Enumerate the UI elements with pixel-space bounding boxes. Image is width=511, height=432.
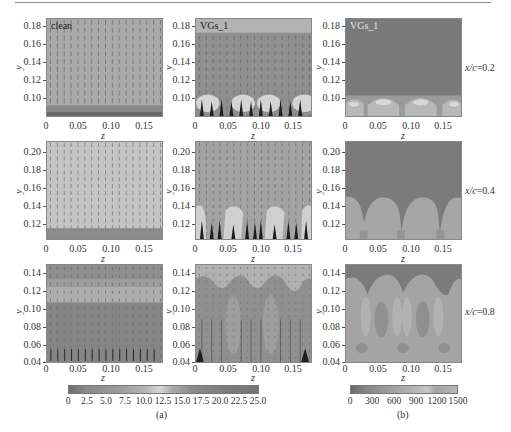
station-val: =0.8 [477,306,495,317]
y-axis-label: y [13,189,24,193]
xtick: 0 [330,363,360,374]
ytick: 0.14 [11,200,41,211]
colorbar-b [350,385,458,394]
vector-field [196,142,311,239]
panel-vgs-a-row3 [195,264,312,363]
ytick: 0.08 [310,321,340,332]
x-axis-label: z [101,372,105,383]
y-axis-label: y [163,309,174,313]
x-axis-label: z [401,253,405,264]
x-axis-label: z [101,253,105,264]
vector-field [196,19,311,116]
panel-clean-row3 [46,264,163,363]
y-axis-label: y [13,309,24,313]
ytick: 0.12 [160,218,190,229]
station-var: x/c [465,185,477,196]
top-rule [15,2,491,3]
ytick: 0.14 [310,200,340,211]
xtick: 0.15 [278,120,308,131]
ytick: 0.12 [160,74,190,85]
ytick: 0.12 [160,285,190,296]
xtick: 0 [180,120,210,131]
ytick: 0.12 [11,218,41,229]
ytick: 0.10 [11,92,41,103]
ytick: 0.20 [160,146,190,157]
ytick: 0.12 [310,285,340,296]
ytick: 0.12 [310,74,340,85]
vector-field [47,19,162,116]
xtick: 0 [330,243,360,254]
ytick: 0.18 [160,20,190,31]
panel-clean-row1: clean [46,18,163,117]
xtick: 0 [180,243,210,254]
xtick: 0.05 [63,120,93,131]
ytick: 0.12 [11,285,41,296]
xtick: 0 [31,363,61,374]
panel-vgs-b-row1: VGs_1 [345,18,462,117]
xtick: 0.15 [278,363,308,374]
caption-a: (a) [156,409,167,420]
xtick: 0.15 [129,363,159,374]
ytick: 0.08 [11,321,41,332]
xtick: 0.05 [363,243,393,254]
x-axis-label: z [401,372,405,383]
ytick: 0.18 [11,164,41,175]
xtick: 0.15 [428,363,458,374]
xtick: 0 [31,120,61,131]
panel-vgs-a-row1: VGs_1 [195,18,312,117]
ytick: 0.16 [160,38,190,49]
x-axis-label: z [251,372,255,383]
ytick: 0.06 [310,339,340,350]
ytick: 0.08 [160,321,190,332]
y-axis-label: y [313,309,324,313]
x-axis-label: z [251,130,255,141]
caption-b: (b) [397,409,409,420]
y-axis-label: y [313,65,324,69]
xtick: 0.15 [129,243,159,254]
xtick: 0.05 [363,363,393,374]
ytick: 0.20 [310,146,340,157]
panel-vgs-b-row3 [345,264,462,363]
ytick: 0.18 [11,20,41,31]
station-label-row3: x/c=0.8 [465,306,495,317]
panel-clean-row2 [46,141,163,240]
ytick: 0.20 [11,146,41,157]
station-val: =0.4 [477,185,495,196]
xtick: 0 [31,243,61,254]
ytick: 0.14 [160,200,190,211]
cbar-tick: 1500 [445,396,471,406]
ytick: 0.06 [160,339,190,350]
panel-label: clean [51,20,72,31]
station-label-row2: x/c=0.4 [465,185,495,196]
xtick: 0.05 [213,363,243,374]
ytick: 0.16 [310,38,340,49]
colorbar-a [68,385,259,394]
ytick: 0.16 [11,38,41,49]
xtick: 0.05 [63,363,93,374]
xtick: 0.05 [213,120,243,131]
ytick: 0.12 [11,74,41,85]
ytick: 0.14 [310,267,340,278]
x-axis-label: z [251,253,255,264]
contour-field [346,19,461,116]
vector-field [196,265,311,362]
y-axis-label: y [163,65,174,69]
contour-field [346,142,461,239]
y-axis-label: y [163,189,174,193]
x-axis-label: z [401,130,405,141]
ytick: 0.18 [310,20,340,31]
station-var: x/c [465,62,477,73]
vector-field [47,265,162,362]
xtick: 0.15 [428,243,458,254]
panel-label: VGs_1 [350,20,378,31]
y-axis-label: y [13,65,24,69]
x-axis-label: z [101,130,105,141]
ytick: 0.12 [310,218,340,229]
xtick: 0.05 [363,120,393,131]
cbar-tick: 25.0 [245,396,271,406]
ytick: 0.06 [11,339,41,350]
ytick: 0.18 [160,164,190,175]
station-var: x/c [465,306,477,317]
xtick: 0.05 [63,243,93,254]
panel-vgs-a-row2 [195,141,312,240]
